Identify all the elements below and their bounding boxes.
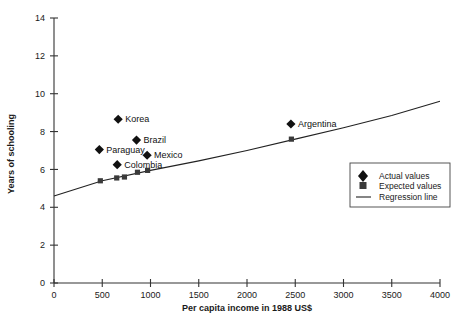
actual-value-point-colombia (113, 160, 122, 169)
legend: Actual values Expected values Regression… (350, 163, 450, 207)
x-tick-label-1000: 1000 (140, 290, 160, 300)
y-tick-label-2: 2 (40, 240, 45, 250)
expected-value-point (135, 170, 140, 175)
scatter-chart: Years of schooling Per capita income in … (0, 0, 457, 322)
y-tick-label-14: 14 (35, 13, 45, 23)
x-axis-title: Per capita income in 1988 US$ (182, 303, 312, 313)
x-tick-label-1500: 1500 (189, 290, 209, 300)
y-axis-tick-labels: 02468101214 (35, 13, 45, 288)
actual-value-point-argentina (286, 119, 295, 128)
y-tick-label-10: 10 (35, 89, 45, 99)
x-tick-label-500: 500 (95, 290, 110, 300)
x-tick-label-4000: 4000 (430, 290, 450, 300)
point-label-mexico: Mexico (154, 150, 183, 160)
actual-value-point-korea (114, 115, 123, 124)
expected-value-point (122, 174, 127, 179)
actual-value-point-brazil (132, 135, 141, 144)
actual-value-point-paraguay (95, 145, 104, 154)
y-tick-label-4: 4 (40, 202, 45, 212)
y-tick-label-12: 12 (35, 51, 45, 61)
x-tick-label-2000: 2000 (237, 290, 257, 300)
legend-label-actual-values: Actual values (379, 171, 430, 181)
square-marker-icon (360, 182, 367, 189)
x-tick-label-2500: 2500 (285, 290, 305, 300)
point-label-korea: Korea (125, 114, 149, 124)
y-tick-label-8: 8 (40, 127, 45, 137)
y-axis-title: Years of schooling (6, 114, 16, 194)
x-tick-label-0: 0 (51, 290, 56, 300)
y-tick-label-0: 0 (40, 278, 45, 288)
legend-label-regression-line: Regression line (379, 192, 438, 202)
point-label-brazil: Brazil (144, 135, 167, 145)
expected-value-point (289, 137, 294, 142)
data-point-labels: ParaguayKoreaColombiaBrazilMexicoArgenti… (106, 114, 336, 169)
expected-value-point (98, 178, 103, 183)
chart-container: Years of schooling Per capita income in … (0, 0, 457, 322)
point-label-argentina: Argentina (298, 119, 337, 129)
x-tick-label-3000: 3000 (333, 290, 353, 300)
expected-value-point (114, 175, 119, 180)
x-axis-tick-labels: 05001000150020002500300035004000 (51, 290, 450, 300)
x-tick-label-3500: 3500 (382, 290, 402, 300)
point-label-colombia: Colombia (124, 160, 162, 170)
y-tick-label-6: 6 (40, 165, 45, 175)
point-label-paraguay: Paraguay (106, 145, 145, 155)
legend-label-expected-values: Expected values (379, 181, 441, 191)
